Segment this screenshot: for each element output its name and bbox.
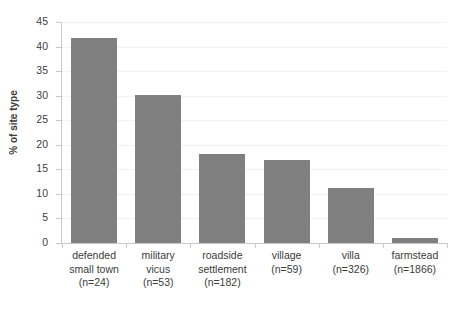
y-tick-label: 45 (18, 15, 48, 27)
bar-slot (383, 22, 447, 243)
bar-chart: % of site type 454035302520151050 defend… (0, 0, 455, 313)
y-tick (56, 145, 61, 146)
x-axis-label-line: roadside (190, 249, 254, 263)
x-axis-label-line: (n=53) (126, 276, 190, 290)
bar-slot (126, 22, 190, 243)
bar[interactable] (71, 38, 117, 243)
x-axis-label-line: villa (319, 249, 383, 263)
y-tick (56, 120, 61, 121)
x-axis-label: villa(n=326) (319, 249, 383, 276)
bar-slot (62, 22, 126, 243)
y-tick-label: 5 (18, 211, 48, 223)
bar[interactable] (199, 154, 245, 243)
y-tick (56, 169, 61, 170)
bar-series (62, 22, 447, 243)
x-tick (255, 243, 256, 248)
bar-slot (190, 22, 254, 243)
x-axis-label-line: settlement (190, 263, 254, 277)
y-tick-label: 0 (18, 236, 48, 248)
y-tick-label: 25 (18, 113, 48, 125)
y-tick-label: 10 (18, 187, 48, 199)
y-tick-label: 15 (18, 162, 48, 174)
x-axis-labels: defendedsmall town(n=24)militaryvicus(n=… (62, 249, 447, 309)
x-tick (126, 243, 127, 248)
y-tick (56, 218, 61, 219)
x-tick (447, 243, 448, 248)
y-tick (56, 47, 61, 48)
x-axis-label-line: village (255, 249, 319, 263)
x-tick (319, 243, 320, 248)
x-axis-label-line: vicus (126, 263, 190, 277)
y-tick-label: 35 (18, 64, 48, 76)
y-tick (56, 243, 61, 244)
x-tick (190, 243, 191, 248)
x-axis-label-line: farmstead (383, 249, 447, 263)
x-axis-label: defendedsmall town(n=24) (62, 249, 126, 290)
x-axis-label: militaryvicus(n=53) (126, 249, 190, 290)
bar-slot (255, 22, 319, 243)
y-tick (56, 71, 61, 72)
bar[interactable] (264, 160, 310, 243)
x-axis-label: farmstead(n=1866) (383, 249, 447, 276)
y-tick (56, 22, 61, 23)
x-axis-label: roadsidesettlement(n=182) (190, 249, 254, 290)
x-axis-label-line: (n=59) (255, 263, 319, 277)
bar[interactable] (392, 238, 438, 243)
bar[interactable] (328, 188, 374, 243)
x-axis-label-line: (n=326) (319, 263, 383, 277)
bar[interactable] (135, 95, 181, 243)
x-axis-label-line: (n=24) (62, 276, 126, 290)
x-axis-label: village(n=59) (255, 249, 319, 276)
x-axis-label-line: military (126, 249, 190, 263)
x-axis-label-line: (n=182) (190, 276, 254, 290)
x-axis-label-line: small town (62, 263, 126, 277)
x-axis-label-line: (n=1866) (383, 263, 447, 277)
y-tick-label: 20 (18, 138, 48, 150)
y-tick (56, 194, 61, 195)
x-tick (383, 243, 384, 248)
y-tick (56, 96, 61, 97)
y-tick-label: 30 (18, 89, 48, 101)
x-axis-label-line: defended (62, 249, 126, 263)
y-tick-label: 40 (18, 40, 48, 52)
bar-slot (319, 22, 383, 243)
y-axis-title-text: % of site type (8, 90, 19, 154)
x-tick (62, 243, 63, 248)
